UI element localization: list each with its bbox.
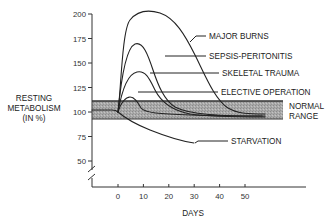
y-tick-200: 200 [73, 10, 87, 19]
y-axis-title-line-2: METABOLISM [7, 104, 60, 113]
label-normal-range-line-2: RANGE [289, 112, 319, 121]
y-axis-title: RESTING METABOLISM (IN %) [7, 94, 60, 123]
x-axis [92, 184, 306, 187]
y-axis-title-line-1: RESTING [16, 94, 52, 103]
metabolism-chart: 200 175 150 125 100 75 50 0 10 20 30 40 … [0, 0, 331, 224]
y-tick-175: 175 [73, 35, 87, 44]
x-tick-0: 0 [116, 192, 121, 201]
x-tick-20: 20 [164, 192, 173, 201]
label-major-burns: MAJOR BURNS [209, 32, 269, 41]
x-axis-title: DAYS [182, 209, 204, 218]
y-tick-75: 75 [77, 133, 86, 142]
x-tick-labels: 0 10 20 30 40 50 [116, 192, 250, 201]
x-tick-10: 10 [139, 192, 148, 201]
label-starvation: STARVATION [231, 137, 281, 146]
y-axis-title-line-3: (IN %) [22, 114, 45, 123]
major-burns-curve [118, 11, 265, 114]
label-sepsis-peritonitis: SEPSIS-PERITONITIS [209, 52, 293, 61]
y-tick-labels: 200 175 150 125 100 75 50 [73, 10, 87, 166]
y-tick-100: 100 [73, 108, 87, 117]
label-elective-operation: ELECTIVE OPERATION [221, 88, 311, 97]
y-tick-150: 150 [73, 59, 87, 68]
y-tick-50: 50 [77, 157, 86, 166]
label-normal-range-line-1: NORMAL [289, 102, 324, 111]
x-tick-30: 30 [190, 192, 199, 201]
x-tick-40: 40 [215, 192, 224, 201]
x-tick-50: 50 [241, 192, 250, 201]
label-skeletal-trauma: SKELETAL TRAUMA [222, 69, 300, 78]
y-tick-125: 125 [73, 84, 87, 93]
